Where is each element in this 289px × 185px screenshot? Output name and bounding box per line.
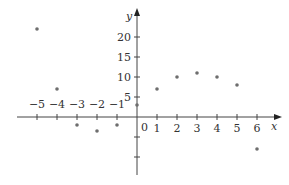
y-tick-label: 10: [117, 71, 131, 84]
x-tick-label: 4: [214, 122, 221, 135]
y-axis-label: y: [125, 10, 133, 23]
x-tick-label: 6: [254, 122, 261, 135]
data-point: [35, 27, 39, 31]
x-tick-label: 1: [154, 122, 161, 135]
x-tick-label: 2: [174, 122, 181, 135]
x-tick-label: −2: [89, 98, 105, 111]
y-axis-arrow-icon: [134, 8, 140, 16]
x-tick-label: −4: [49, 98, 65, 111]
data-point: [115, 123, 119, 127]
x-tick-label: −5: [29, 98, 45, 111]
y-tick-label: 20: [117, 31, 131, 44]
y-tick-label: 5: [124, 91, 131, 104]
data-point: [75, 123, 79, 127]
x-tick-label: 5: [234, 122, 241, 135]
x-tick-label: 3: [194, 122, 201, 135]
origin-label: 0: [141, 121, 148, 134]
data-point: [155, 87, 159, 91]
x-tick-label: −1: [109, 98, 125, 111]
data-point: [95, 129, 99, 133]
data-point: [235, 83, 239, 87]
scatter-plot: −5−4−3−2−1123456 5101520 x y 0: [0, 0, 289, 185]
x-axis: −5−4−3−2−1123456: [17, 98, 282, 135]
x-tick-label: −3: [69, 98, 85, 111]
data-point: [195, 71, 199, 75]
y-tick-label: 15: [117, 51, 131, 64]
data-point: [55, 87, 59, 91]
y-axis: 5101520: [117, 8, 140, 175]
data-point: [175, 75, 179, 79]
data-point: [215, 75, 219, 79]
data-point: [255, 147, 259, 151]
x-axis-label: x: [271, 120, 278, 133]
data-point: [135, 103, 139, 107]
